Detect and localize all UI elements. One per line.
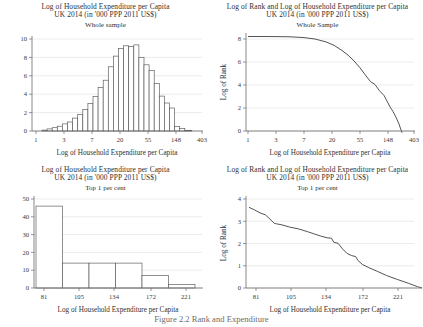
y-tick-label: 10 <box>22 266 29 273</box>
x-tick-label: 221 <box>393 293 403 300</box>
x-tick-label: 1 <box>34 136 37 143</box>
y-tick-label: 2 <box>238 240 241 247</box>
x-axis-title: Log of Household Expenditure per Capita <box>270 306 392 314</box>
x-tick-label: 81 <box>41 293 48 300</box>
y-tick-label: 8 <box>24 54 28 61</box>
x-tick-label: 403 <box>409 136 420 143</box>
y-tick-marks <box>31 199 34 288</box>
x-tick-label: 403 <box>197 136 208 143</box>
y-tick-label: 10 <box>20 35 27 42</box>
y-tick-marks <box>29 39 32 131</box>
y-tick-label: 20 <box>22 249 29 256</box>
chart-top-right-rank: 0 2 4 6 8 Log of Rank 1 <box>212 0 423 163</box>
y-tick-label: 6 <box>24 72 28 79</box>
plot-area-bottom-left: 0 10 20 30 40 50 81 105 134 <box>0 163 211 326</box>
x-tick-label: 20 <box>117 136 124 143</box>
x-tick-label: 221 <box>181 293 191 300</box>
y-tick-labels: 0 2 4 6 8 10 <box>20 35 27 134</box>
y-tick-label: 4 <box>238 195 242 202</box>
y-tick-label: 6 <box>238 58 242 65</box>
x-tick-label: 134 <box>109 293 120 300</box>
figure-caption: Figure 2.2 Rank and Expenditure <box>0 314 423 327</box>
y-tick-label: 0 <box>238 284 242 291</box>
x-tick-label: 81 <box>253 293 260 300</box>
histogram-bars <box>36 206 195 288</box>
x-tick-marks <box>36 131 202 134</box>
chart-top-left-histogram: 0 2 4 6 8 10 1 3 <box>0 0 211 163</box>
x-tick-label: 172 <box>146 293 156 300</box>
x-tick-label: 134 <box>321 293 332 300</box>
y-tick-labels: 0 1 2 3 4 <box>238 195 242 291</box>
x-tick-labels: 1 3 7 20 55 148 403 <box>34 136 207 143</box>
y-tick-label: 2 <box>238 104 241 111</box>
x-tick-label: 105 <box>74 293 85 300</box>
y-tick-label: 30 <box>22 231 29 238</box>
x-tick-label: 20 <box>329 136 336 143</box>
y-axis-title: Log of Rank <box>220 224 228 261</box>
x-tick-label: 3 <box>274 136 278 143</box>
x-axis-title: Log of Household Expenditure per Capita <box>58 306 180 314</box>
plot-area-top-right: 0 2 4 6 8 Log of Rank 1 <box>212 0 423 163</box>
y-tick-label: 4 <box>24 90 28 97</box>
x-tick-label: 172 <box>358 293 368 300</box>
x-tick-label: 148 <box>383 136 394 143</box>
y-tick-label: 0 <box>26 284 30 291</box>
y-tick-label: 4 <box>238 81 242 88</box>
panel-bottom-right: Log of Rank and Log of Household Expendi… <box>212 163 423 326</box>
x-tick-label: 1 <box>246 136 249 143</box>
panel-top-left: Log of Household Expenditure per Capita … <box>0 0 211 163</box>
panel-bottom-left: Log of Household Expenditure per Capita … <box>0 163 211 326</box>
x-tick-labels: 81 105 134 172 221 <box>41 293 191 300</box>
x-tick-label: 55 <box>145 136 152 143</box>
x-tick-label: 3 <box>62 136 66 143</box>
panel-top-right: Log of Rank and Log of Household Expendi… <box>212 0 423 163</box>
histogram-bars <box>42 45 192 131</box>
x-tick-labels: 1 3 7 20 55 148 403 <box>246 136 419 143</box>
y-tick-label: 40 <box>22 213 29 220</box>
y-axis-title: Log of Rank <box>220 63 228 100</box>
y-tick-label: 50 <box>22 195 29 202</box>
plot-area-bottom-right: 0 1 2 3 4 Log of Rank 81 105 13 <box>212 163 423 326</box>
x-axis-title: Log of Household Expenditure per Capita <box>270 149 392 157</box>
x-tick-marks <box>256 288 398 291</box>
x-tick-label: 55 <box>357 136 364 143</box>
x-tick-label: 148 <box>171 136 182 143</box>
y-tick-label: 8 <box>238 35 242 42</box>
y-tick-label: 0 <box>238 127 242 134</box>
chart-bottom-right-rank: 0 1 2 3 4 Log of Rank 81 105 13 <box>212 163 423 326</box>
y-tick-label: 1 <box>238 262 241 269</box>
x-tick-marks <box>248 131 414 134</box>
x-tick-label: 7 <box>90 136 94 143</box>
x-axis-title: Log of Household Expenditure per Capita <box>57 149 179 157</box>
y-tick-label: 3 <box>238 218 242 225</box>
y-tick-label: 0 <box>24 127 28 134</box>
x-tick-marks <box>44 288 186 291</box>
gridlines <box>246 199 414 288</box>
y-tick-labels: 0 2 4 6 8 <box>238 35 242 134</box>
chart-bottom-left-histogram: 0 10 20 30 40 50 81 105 134 <box>0 163 211 326</box>
rank-curve <box>249 207 422 288</box>
y-tick-marks <box>243 39 246 131</box>
x-tick-label: 7 <box>302 136 306 143</box>
figure-container: Log of Household Expenditure per Capita … <box>0 0 423 327</box>
y-tick-labels: 0 10 20 30 40 50 <box>22 195 29 291</box>
y-tick-marks <box>243 199 246 288</box>
x-tick-label: 105 <box>286 293 297 300</box>
rank-curve <box>248 37 402 133</box>
plot-area-top-left: 0 2 4 6 8 10 1 3 <box>0 0 211 163</box>
x-tick-labels: 81 105 134 172 221 <box>253 293 403 300</box>
y-tick-label: 2 <box>24 109 27 116</box>
gridlines <box>246 39 414 131</box>
